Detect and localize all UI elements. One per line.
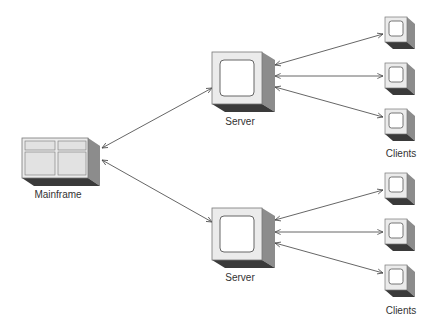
edge-mainframe-server-top bbox=[102, 88, 212, 148]
client-5-icon bbox=[385, 219, 415, 251]
mainframe-label: Mainframe bbox=[18, 189, 98, 200]
clients-bottom-label: Clients bbox=[361, 305, 441, 316]
client-4-icon bbox=[385, 173, 415, 205]
mainframe-icon bbox=[22, 138, 100, 186]
server-top-icon bbox=[212, 52, 275, 112]
edge-server-bottom-client-4 bbox=[275, 190, 383, 220]
server-top-label: Server bbox=[200, 116, 280, 127]
server-bottom-label: Server bbox=[200, 272, 280, 283]
clients-top-label: Clients bbox=[361, 148, 441, 159]
edge-server-top-client-1 bbox=[275, 34, 383, 65]
edge-server-top-client-3 bbox=[275, 87, 383, 117]
client-6-icon bbox=[385, 265, 415, 297]
client-3-icon bbox=[385, 109, 415, 141]
edge-mainframe-server-bottom bbox=[102, 160, 212, 222]
client-2-icon bbox=[385, 63, 415, 95]
client-1-icon bbox=[385, 17, 415, 49]
server-bottom-icon bbox=[212, 208, 275, 268]
edge-server-bottom-client-6 bbox=[275, 243, 383, 273]
